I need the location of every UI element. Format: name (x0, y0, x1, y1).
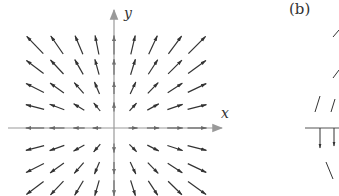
vector-arrow (26, 164, 44, 173)
vector-arrow (131, 59, 136, 74)
vector-arrow (148, 83, 158, 94)
vector-arrow (148, 163, 158, 174)
vector-arrow (94, 103, 100, 111)
vector-arrow (27, 36, 44, 53)
vector-arrow (188, 60, 206, 73)
vector-arrow (26, 60, 43, 73)
vector-arrow (168, 163, 183, 173)
vector-arrow (147, 145, 158, 151)
panel-b-arrow (326, 162, 333, 179)
vector-arrow (95, 82, 100, 94)
panel-b: (b) (289, 0, 339, 179)
panel-b-label: (b) (289, 0, 310, 18)
vector-arrow (188, 105, 207, 110)
vector-arrow (74, 163, 83, 174)
vector-arrow (168, 60, 182, 74)
vector-arrows (26, 36, 207, 196)
vector-arrow (95, 162, 100, 174)
vector-arrow (188, 182, 206, 195)
vector-arrow (74, 145, 85, 151)
vector-arrow (168, 36, 181, 54)
y-axis-label: y (123, 5, 133, 21)
vector-arrow (51, 36, 63, 54)
vector-arrow (75, 181, 84, 196)
panel-b-arrow (333, 30, 339, 37)
vector-arrow (188, 84, 206, 93)
vector-arrow (148, 181, 157, 195)
vector-arrow (50, 163, 64, 173)
vector-arrow (168, 83, 183, 93)
vector-arrow (168, 181, 182, 195)
vector-arrow (26, 146, 44, 151)
vector-arrow (50, 104, 65, 109)
vector-arrow (50, 83, 64, 93)
panel-b-arrow (333, 70, 339, 78)
panel-b-arrow (331, 99, 335, 112)
vector-arrow (129, 144, 136, 151)
vector-arrow (188, 146, 207, 151)
vector-arrow (130, 103, 137, 111)
vector-arrow (51, 60, 64, 74)
vector-arrow (51, 181, 64, 195)
vector-arrow (26, 105, 44, 110)
vector-arrow (131, 36, 135, 55)
vector-arrow (148, 60, 157, 75)
vector-arrow (94, 144, 101, 152)
vector-arrow (95, 36, 99, 55)
vector-arrow (167, 146, 182, 151)
vector-arrow (95, 180, 99, 195)
vector-arrow (75, 36, 83, 55)
vector-arrow (26, 182, 43, 195)
vector-arrow (130, 82, 136, 94)
vector-arrow (147, 104, 158, 110)
vector-arrow (149, 36, 158, 54)
vector-field-figure: x y (b) (0, 0, 339, 196)
vector-arrow (130, 162, 136, 174)
vector-arrow (74, 83, 83, 94)
vector-arrow (74, 104, 85, 110)
vector-arrow (167, 104, 182, 109)
panel-a: x y (8, 5, 229, 196)
vector-arrow (75, 60, 83, 75)
x-axis-label: x (221, 105, 229, 121)
panel-b-arrow (315, 96, 320, 112)
vector-arrow (50, 145, 65, 150)
vector-arrow (188, 164, 206, 173)
vector-arrow (95, 59, 99, 74)
vector-arrow (188, 36, 205, 53)
vector-arrow (26, 84, 44, 93)
vector-arrow (131, 180, 136, 195)
